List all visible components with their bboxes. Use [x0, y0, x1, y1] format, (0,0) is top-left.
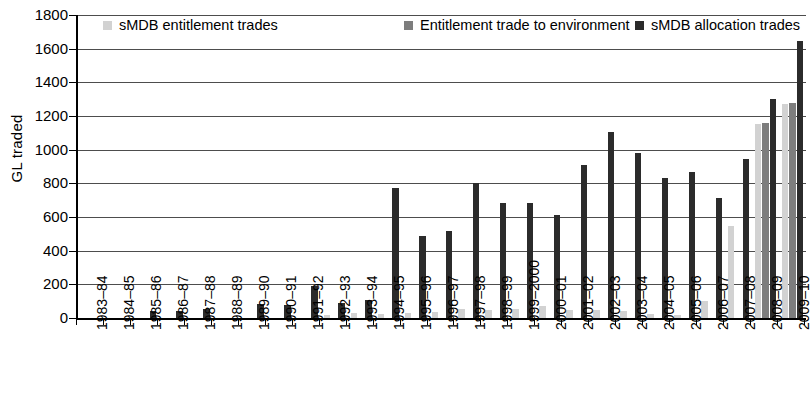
bar-group	[647, 15, 668, 318]
y-axis-tick-label: 200	[0, 276, 68, 291]
x-axis-tick-label: 1999–2000	[526, 260, 542, 330]
x-axis-tick-label: 1983–84	[94, 275, 110, 330]
bar-group	[189, 15, 210, 318]
x-axis-tick-label: 2008–09	[769, 275, 785, 330]
y-axis-tick-mark	[69, 82, 76, 83]
bar-group	[674, 15, 695, 318]
bar	[762, 123, 768, 318]
x-axis-tick-label: 1987–88	[202, 275, 218, 330]
bar-group	[324, 15, 345, 318]
x-axis-tick-label: 2000–01	[553, 275, 569, 330]
bar-group	[351, 15, 372, 318]
bar-group	[566, 15, 587, 318]
bar-group	[243, 15, 264, 318]
x-axis-tick-label: 1997–98	[472, 275, 488, 330]
x-axis-tick-label: 2003–04	[634, 275, 650, 330]
x-axis-tick-mark	[76, 319, 77, 325]
bar-group	[593, 15, 614, 318]
bar-group	[270, 15, 291, 318]
x-axis-tick-label: 1996–97	[445, 275, 461, 330]
x-axis-tick-label: 2001–02	[580, 275, 596, 330]
x-axis-tick-label: 2009–10	[796, 275, 812, 330]
y-axis-tick-mark	[69, 183, 76, 184]
y-axis-tick-label: 1400	[0, 74, 68, 89]
y-axis-tick-mark	[69, 284, 76, 285]
x-axis-tick-label: 1993–94	[364, 275, 380, 330]
bar	[789, 103, 795, 318]
bar-group	[378, 15, 399, 318]
y-axis-tick-mark	[69, 251, 76, 252]
bar-group	[81, 15, 102, 318]
x-axis-tick-label: 2005–06	[688, 275, 704, 330]
x-axis-tick-label: 1990–91	[283, 275, 299, 330]
bar-group	[539, 15, 560, 318]
y-axis-tick-label: 800	[0, 175, 68, 190]
x-axis-tick-label: 2004–05	[661, 275, 677, 330]
bar-group	[162, 15, 183, 318]
x-axis-tick-label: 2002–03	[607, 275, 623, 330]
y-axis-tick-mark	[69, 116, 76, 117]
bar-group	[432, 15, 453, 318]
x-axis-tick-label: 2007–08	[742, 275, 758, 330]
bar-group	[108, 15, 129, 318]
y-axis-tick-label: 600	[0, 209, 68, 224]
y-axis-tick-mark	[69, 49, 76, 50]
bar-group	[458, 15, 479, 318]
y-axis-tick-mark	[69, 217, 76, 218]
x-axis-tick-label: 1992–93	[337, 275, 353, 330]
bar-group	[701, 15, 722, 318]
y-axis-tick-label: 1000	[0, 142, 68, 157]
y-axis-tick-label: 400	[0, 243, 68, 258]
bar-group	[782, 15, 803, 318]
x-axis-tick-label: 1986–87	[175, 275, 191, 330]
bar-group	[297, 15, 318, 318]
bar-chart: GL traded 020040060080010001200140016001…	[0, 0, 812, 393]
x-axis-tick-label: 1989–90	[256, 275, 272, 330]
y-axis-tick-mark	[69, 318, 76, 319]
bar-group	[620, 15, 641, 318]
x-axis-tick-label: 1994–95	[391, 275, 407, 330]
y-axis-tick-label: 1600	[0, 41, 68, 56]
x-axis-tick-label: 1998–99	[499, 275, 515, 330]
bar-group	[728, 15, 749, 318]
bar-group	[216, 15, 237, 318]
bar-group	[755, 15, 776, 318]
y-axis-tick-mark	[69, 150, 76, 151]
bar-group	[135, 15, 156, 318]
y-axis-tick-label: 1200	[0, 108, 68, 123]
x-axis-tick-label: 1991–92	[310, 275, 326, 330]
bar-group	[485, 15, 506, 318]
x-axis-tick-label: 1995–96	[418, 275, 434, 330]
x-axis-tick-label: 2006–07	[715, 275, 731, 330]
y-axis-tick-label: 0	[0, 310, 68, 325]
x-axis-tick-label: 1988–89	[229, 275, 245, 330]
bar-group	[405, 15, 426, 318]
x-axis-tick-label: 1985–86	[148, 275, 164, 330]
x-axis-tick-label: 1984–85	[121, 275, 137, 330]
